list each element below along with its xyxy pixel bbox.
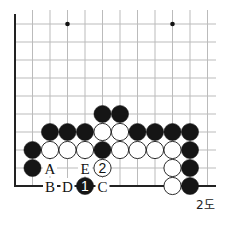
- black-stone: [59, 123, 76, 140]
- white-stone: [164, 159, 181, 176]
- go-board: AEBDC21: [0, 0, 235, 225]
- black-stone: [181, 159, 198, 176]
- diagram-caption: 2도: [196, 195, 215, 212]
- black-stone: [24, 141, 41, 158]
- black-stone: [146, 123, 163, 140]
- white-stone: [146, 141, 163, 158]
- black-stone: [181, 177, 198, 194]
- black-stone: [24, 159, 41, 176]
- move-number-1: 1: [81, 178, 89, 194]
- move-label-e: E: [80, 161, 89, 177]
- white-stone: [129, 141, 146, 158]
- move-number-2: 2: [99, 160, 107, 176]
- black-stone: [94, 141, 111, 158]
- move-label-b: B: [45, 179, 55, 195]
- white-stone: [164, 177, 181, 194]
- white-stone: [76, 141, 93, 158]
- black-stone: [76, 123, 93, 140]
- move-label-a: A: [45, 161, 56, 177]
- black-stone: [181, 141, 198, 158]
- star-point: [170, 22, 175, 27]
- black-stone: [94, 105, 111, 122]
- black-stone: [129, 123, 146, 140]
- star-point: [65, 22, 70, 27]
- move-label-d: D: [62, 179, 73, 195]
- move-label-c: C: [97, 179, 107, 195]
- white-stone: [164, 141, 181, 158]
- white-stone: [111, 141, 128, 158]
- black-stone: [111, 105, 128, 122]
- black-stone: [164, 123, 181, 140]
- white-stone: [111, 123, 128, 140]
- black-stone: [181, 123, 198, 140]
- white-stone: [59, 141, 76, 158]
- black-stone: [41, 123, 58, 140]
- white-stone: [94, 123, 111, 140]
- white-stone: [41, 141, 58, 158]
